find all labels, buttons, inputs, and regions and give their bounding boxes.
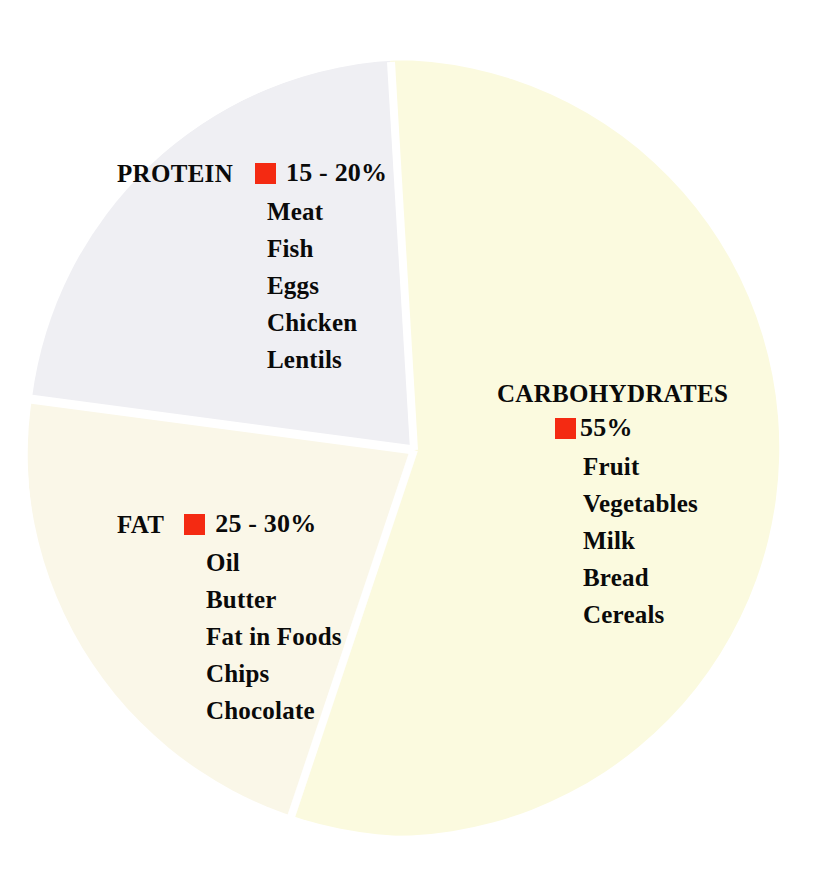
carbohydrates-header-row: 55% (555, 415, 728, 441)
list-item: Fat in Foods (206, 618, 342, 655)
list-item: Butter (206, 581, 342, 618)
fat-percent-value: 25 - 30% (215, 511, 316, 537)
carbohydrates-food-list: Fruit Vegetables Milk Bread Cereals (583, 448, 728, 633)
protein-color-swatch-icon (255, 163, 276, 184)
list-item: Oil (206, 544, 342, 581)
fat-category-name: FAT (117, 512, 164, 537)
list-item: Chocolate (206, 692, 342, 729)
list-item: Vegetables (583, 485, 728, 522)
fat-header-row: FAT 25 - 30% (117, 511, 342, 537)
pie-chart: PROTEIN 15 - 20% Meat Fish Eggs Chicken … (0, 0, 839, 873)
list-item: Eggs (267, 267, 387, 304)
list-item: Milk (583, 522, 728, 559)
carbohydrates-label-group: CARBOHYDRATES 55% Fruit Vegetables Milk … (497, 381, 728, 633)
protein-percent-value: 15 - 20% (286, 160, 387, 186)
list-item: Cereals (583, 596, 728, 633)
carbohydrates-category-name: CARBOHYDRATES (497, 381, 728, 406)
list-item: Fruit (583, 448, 728, 485)
carbohydrates-percent-value: 55% (580, 415, 633, 441)
list-item: Bread (583, 559, 728, 596)
protein-category-name: PROTEIN (117, 161, 233, 186)
list-item: Lentils (267, 341, 387, 378)
fat-label-group: FAT 25 - 30% Oil Butter Fat in Foods Chi… (117, 511, 342, 729)
protein-header-row: PROTEIN 15 - 20% (117, 160, 387, 186)
protein-food-list: Meat Fish Eggs Chicken Lentils (267, 193, 387, 378)
list-item: Chips (206, 655, 342, 692)
list-item: Chicken (267, 304, 387, 341)
fat-food-list: Oil Butter Fat in Foods Chips Chocolate (206, 544, 342, 729)
carbohydrates-color-swatch-icon (555, 418, 576, 439)
list-item: Meat (267, 193, 387, 230)
list-item: Fish (267, 230, 387, 267)
protein-label-group: PROTEIN 15 - 20% Meat Fish Eggs Chicken … (117, 160, 387, 378)
fat-color-swatch-icon (184, 514, 205, 535)
